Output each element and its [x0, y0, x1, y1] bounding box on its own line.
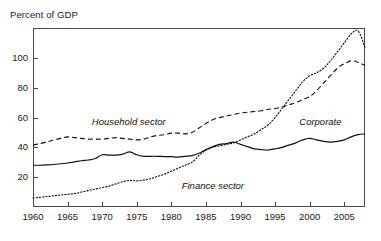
x-tick-label: 1985 [189, 212, 223, 222]
x-tick-label: 2005 [327, 212, 361, 222]
x-tick-label: 1980 [154, 212, 188, 222]
series-label: Household sector [92, 116, 166, 127]
chart-figure: Percent of GDP 20406080100 1960196519701… [0, 0, 381, 241]
y-tick-label: 80 [4, 83, 28, 93]
x-tick-label: 1960 [16, 212, 50, 222]
x-tick-label: 2000 [293, 212, 327, 222]
series-label: Corporate [299, 116, 341, 127]
x-tick-label: 1975 [120, 212, 154, 222]
x-tick-label: 1965 [51, 212, 85, 222]
y-axis-title: Percent of GDP [10, 9, 78, 20]
line-finance-sector [33, 30, 365, 198]
x-tick-label: 1990 [224, 212, 258, 222]
y-tick-label: 100 [4, 53, 28, 63]
x-tick-label: 1995 [258, 212, 292, 222]
series-label: Finance sector [182, 180, 244, 191]
x-tick-label: 1970 [85, 212, 119, 222]
y-tick-label: 20 [4, 172, 28, 182]
y-tick-label: 40 [4, 142, 28, 152]
y-tick-label: 60 [4, 113, 28, 123]
